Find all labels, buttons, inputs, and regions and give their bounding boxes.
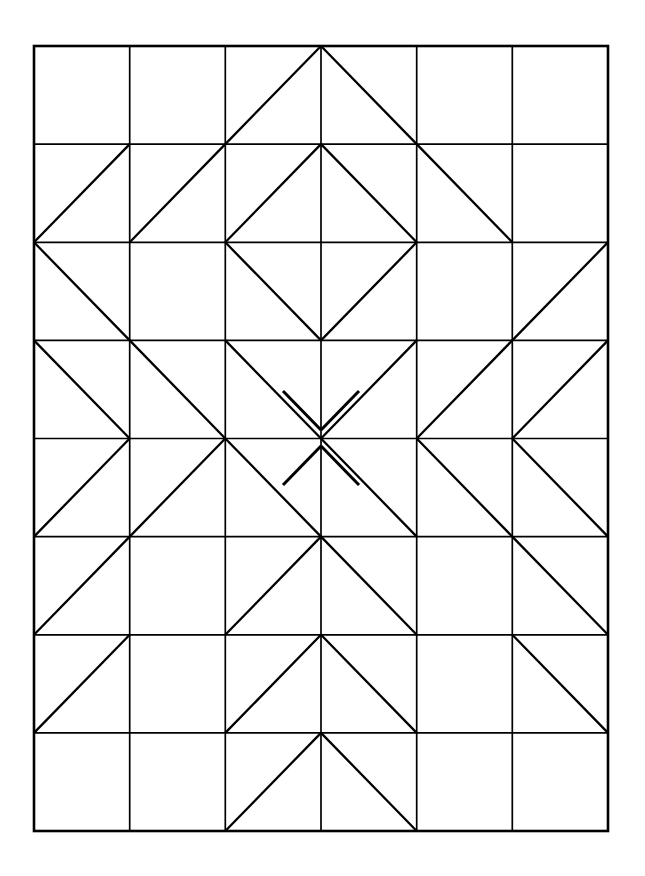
quilt-pattern-figure	[0, 0, 645, 876]
diagram-page	[0, 0, 645, 876]
